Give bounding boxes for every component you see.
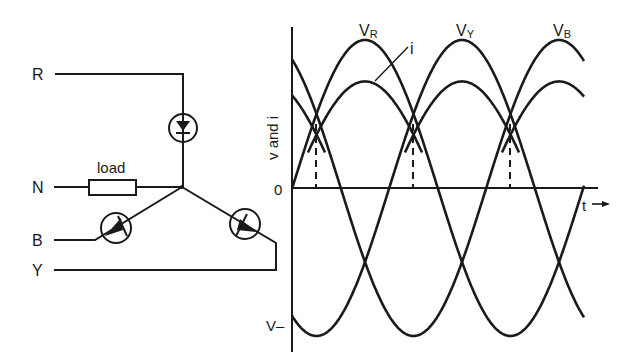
rectifier-diagram: R N B Y load (0, 0, 638, 364)
terminal-label-n: N (32, 179, 44, 196)
circuit: R N B Y load (32, 66, 276, 279)
vy-label: VY (456, 22, 475, 40)
curve-i-segment (292, 81, 584, 152)
vminus-tick-label: V– (266, 317, 285, 334)
y-axis-label: v and i (264, 116, 281, 160)
zero-tick-label: 0 (274, 181, 282, 198)
t-arrow-icon (592, 201, 610, 207)
diode-r-icon (169, 114, 197, 142)
terminal-label-y: Y (32, 262, 43, 279)
diode-b-icon (101, 213, 131, 243)
waveform-chart: 0 V– t v and i VR VY VB i (264, 22, 610, 352)
terminal-label-b: B (32, 232, 43, 249)
vr-label: VR (359, 22, 378, 40)
diode-y-icon (230, 209, 260, 239)
i-leader-line (375, 47, 408, 81)
vb-label: VB (553, 22, 571, 40)
load-resistor (89, 180, 136, 195)
t-axis-label: t (582, 197, 587, 214)
i-label: i (410, 40, 414, 57)
terminal-label-r: R (32, 66, 44, 83)
load-label: load (97, 159, 125, 176)
